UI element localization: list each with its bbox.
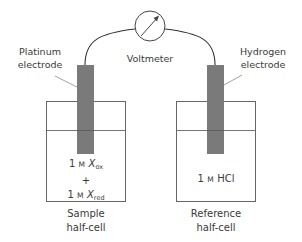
reference-solution-label: 1 M HCl xyxy=(176,172,256,187)
voltmeter-label: Voltmeter xyxy=(120,52,180,65)
reduced-species: 1 M Xred xyxy=(46,188,126,205)
hydrogen-leader-line xyxy=(224,75,242,85)
sample-half-cell-caption: Sample half-cell xyxy=(46,207,126,235)
electrochemical-cell-diagram xyxy=(0,0,302,242)
platinum-leader-line xyxy=(55,76,77,87)
voltmeter-dial-icon xyxy=(135,11,165,41)
plus-sign: + xyxy=(46,174,126,188)
hydrogen-electrode-label: Hydrogen electrode xyxy=(233,45,293,71)
sample-solution-label: 1 M Xox + 1 M Xred xyxy=(46,157,126,205)
reference-half-cell-caption: Reference half-cell xyxy=(176,207,256,235)
platinum-electrode-label: Platinum electrode xyxy=(10,45,70,71)
hydrogen-electrode xyxy=(207,65,224,154)
platinum-electrode xyxy=(77,65,94,154)
oxidized-species: 1 M Xox xyxy=(46,157,126,174)
